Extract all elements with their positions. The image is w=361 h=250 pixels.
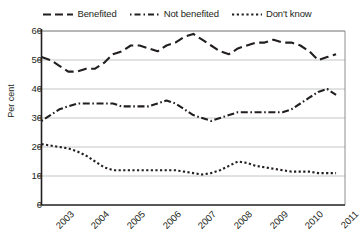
series-line-benefited	[42, 34, 337, 72]
series-line-not-benefited	[42, 89, 337, 121]
series-line-don-t-know	[42, 144, 337, 174]
